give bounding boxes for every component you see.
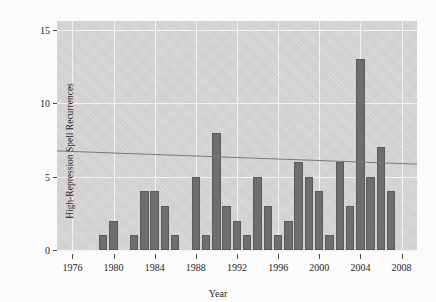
gridline-y-0 [57,250,417,251]
x-tick-2008 [402,254,403,259]
y-tick-15 [53,30,57,31]
y-ticklabel-5: 5 [45,171,50,182]
y-tick-10 [53,103,57,104]
x-ticklabel-2008: 2008 [392,262,412,273]
x-ticklabel-2004: 2004 [350,262,370,273]
x-tick-1992 [237,254,238,259]
y-ticklabel-0: 0 [45,245,50,256]
y-tick-0 [53,250,57,251]
x-ticklabel-2000: 2000 [309,262,329,273]
x-ticklabel-1992: 1992 [227,262,247,273]
y-ticklabel-15: 15 [40,24,50,35]
chart-figure: 051015 197619801984198819921996200020042… [0,0,436,302]
x-tick-2000 [319,254,320,259]
plot-panel: 051015 197619801984198819921996200020042… [57,21,417,250]
x-tick-2004 [360,254,361,259]
x-ticklabel-1980: 1980 [104,262,124,273]
x-tick-1996 [278,254,279,259]
x-ticklabel-1996: 1996 [268,262,288,273]
y-ticklabel-10: 10 [40,98,50,109]
x-tick-1984 [155,254,156,259]
y-axis-label: High-Repression Spell Recurrences [65,83,75,219]
x-tick-1980 [114,254,115,259]
x-axis-label: Year [0,288,436,299]
y-tick-5 [53,177,57,178]
x-ticklabel-1984: 1984 [145,262,165,273]
x-tick-1976 [72,254,73,259]
trend-line [57,21,417,250]
x-tick-1988 [196,254,197,259]
x-ticklabel-1976: 1976 [62,262,82,273]
x-ticklabel-1988: 1988 [186,262,206,273]
